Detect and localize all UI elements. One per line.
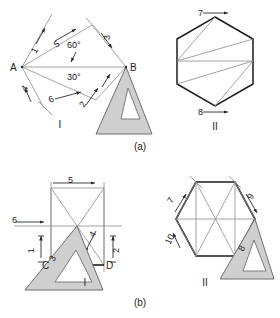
caption-a: (a)	[134, 141, 146, 152]
point-label-A: A	[10, 62, 17, 73]
point-label-D: D	[106, 260, 113, 271]
stroke-number-7-a-II: 7	[198, 8, 203, 18]
vertex-B-dot	[125, 66, 127, 68]
stroke-number-8-a-II: 8	[198, 107, 203, 117]
vertex-A-dot	[21, 66, 23, 68]
stroke-number-1-b-I: 1	[26, 248, 36, 253]
stroke-number-6-b-I: 6	[12, 215, 17, 225]
point-label-C: C	[42, 260, 49, 271]
panel-a-I-roman: I	[59, 119, 62, 130]
stroke-number-3: 3	[102, 35, 112, 40]
technical-drawing-figure: A B 1 5 3 4 6 2 60° 30° I 7 8 II (a)	[0, 0, 280, 318]
angle-label-30: 30°	[67, 72, 81, 82]
panel-b-I-roman: I	[84, 277, 87, 288]
stroke-number-5-b-I: 5	[68, 175, 73, 185]
stroke-number-2-b-I: 2	[111, 248, 121, 253]
caption-b: (b)	[134, 297, 146, 308]
angle-label-60: 60°	[67, 40, 81, 50]
point-label-B: B	[130, 62, 137, 73]
panel-a-II-roman: II	[212, 121, 218, 132]
panel-b-II-roman: II	[202, 277, 208, 288]
